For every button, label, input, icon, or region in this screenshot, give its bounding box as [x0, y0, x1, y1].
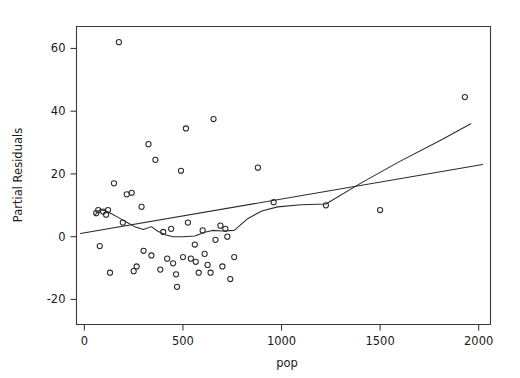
x-tick-label: 1500: [365, 334, 394, 348]
y-tick-label: 20: [51, 167, 66, 181]
x-tick-label: 2000: [464, 334, 493, 348]
x-tick-label: 0: [81, 334, 88, 348]
y-tick-label: -20: [47, 292, 66, 306]
partial-residual-plot: 0500100015002000 -200204060 pop Partial …: [0, 0, 520, 378]
y-tick-label: 0: [58, 230, 65, 244]
x-tick-label: 1000: [267, 334, 296, 348]
y-tick-label: 60: [51, 41, 66, 55]
y-axis-title: Partial Residuals: [11, 128, 25, 222]
x-axis-title: pop: [276, 356, 298, 370]
plot-canvas: 0500100015002000 -200204060 pop Partial …: [0, 0, 520, 378]
x-tick-label: 500: [172, 334, 194, 348]
plot-background: [0, 0, 520, 378]
y-tick-label: 40: [51, 104, 66, 118]
